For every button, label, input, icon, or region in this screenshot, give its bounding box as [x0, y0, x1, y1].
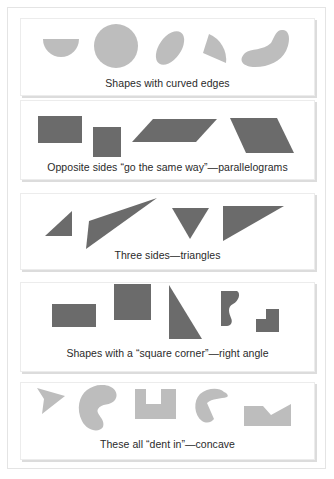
panel-parallelograms: Opposite sides “go the same way”—paralle… — [20, 100, 315, 180]
long-thin-triangle-shape — [86, 198, 157, 249]
circle-shape — [94, 24, 138, 68]
caption-triangles: Three sides—triangles — [21, 249, 314, 261]
l-shape — [256, 309, 279, 332]
wavy-edge-shape — [221, 291, 239, 326]
caption-parallelograms: Opposite sides “go the same way”—paralle… — [21, 161, 314, 173]
caption-concave: These all “dent in”—concave — [21, 438, 314, 450]
slanted-parallelogram-shape — [132, 119, 217, 142]
arrowhead-shape — [37, 388, 65, 414]
c-blob-shape — [79, 385, 117, 430]
u-shape — [135, 389, 176, 419]
wide-parallelogram-shape — [230, 118, 294, 153]
right-angle-shapes-group — [21, 283, 316, 373]
ellipse-shape — [150, 26, 190, 70]
panel-concave: These all “dent in”—concave — [20, 382, 315, 460]
notched-rectangle-shape — [244, 404, 291, 426]
caption-right-angle: Shapes with a “square corner”—right angl… — [21, 347, 314, 359]
right-triangle-shape — [169, 285, 202, 339]
pac-shape — [195, 389, 227, 423]
circle-sector-shape — [203, 34, 226, 63]
panel-right-angle: Shapes with a “square corner”—right angl… — [20, 282, 315, 372]
square-shape — [114, 284, 151, 320]
wide-triangle-shape — [223, 206, 284, 241]
square-shape — [93, 127, 121, 157]
small-right-triangle-shape — [45, 211, 72, 236]
caption-curved-edges: Shapes with curved edges — [21, 77, 314, 89]
half-circle-shape — [43, 39, 79, 57]
panel-triangles: Three sides—triangles — [20, 193, 315, 270]
panel-curved-edges: Shapes with curved edges — [20, 18, 315, 96]
rectangle-shape — [52, 304, 96, 327]
rectangle-shape — [38, 116, 82, 143]
kidney-curve-shape — [242, 30, 289, 67]
inverted-triangle-shape — [172, 208, 209, 239]
